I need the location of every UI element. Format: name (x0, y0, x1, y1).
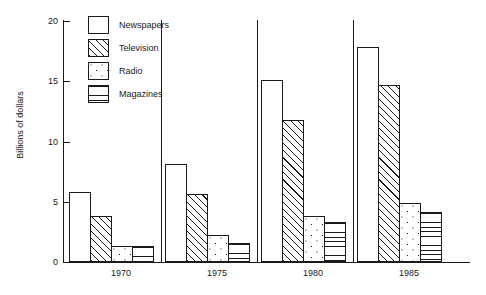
x-tick-label-1985: 1985 (379, 268, 439, 278)
bar-1970-television (90, 216, 112, 262)
y-tick-label-0-wrap: 0 (36, 258, 58, 267)
y-tick-label-5-wrap: 5 (36, 198, 58, 207)
bar-1975-television (186, 194, 208, 262)
bar-group-1985-bars (357, 20, 442, 262)
y-tick-label-20-wrap: 20 (36, 17, 58, 26)
legend-label-magazines: Magazines (119, 89, 163, 99)
y-tick-label-10: 10 (36, 138, 58, 147)
y-tick-0 (63, 262, 70, 263)
y-tick-label-15: 15 (36, 77, 58, 86)
legend-label-radio: Radio (119, 66, 143, 76)
x-tick-label-1980: 1980 (283, 268, 343, 278)
bar-1985-magazines (420, 212, 442, 262)
bar-group-1975-bars (165, 20, 250, 262)
bar-1985-newspapers (357, 47, 379, 262)
legend-item-television: Television (88, 36, 169, 59)
bar-1975-magazines (228, 243, 250, 262)
bar-1970-magazines (132, 246, 154, 262)
chart-legend: Newspapers Television Radio Magazines (88, 13, 169, 105)
bar-group-1980-bars (261, 20, 346, 262)
y-axis-title: Billions of dollars (15, 60, 25, 190)
legend-label-television: Television (119, 43, 159, 53)
x-axis-line (63, 262, 470, 263)
bar-1975-radio (207, 235, 229, 262)
y-tick-label-15-wrap: 15 (36, 77, 58, 86)
y-tick-label-0: 0 (36, 258, 58, 267)
bar-1975-newspapers (165, 164, 187, 262)
legend-label-newspapers: Newspapers (119, 20, 169, 30)
bar-1980-television (282, 120, 304, 262)
bar-1985-radio (399, 203, 421, 262)
legend-swatch-magazines-icon (88, 85, 109, 103)
bar-1985-television (378, 85, 400, 262)
bar-1970-radio (111, 246, 133, 262)
x-tick-label-1975: 1975 (187, 268, 247, 278)
group-separator-3 (353, 20, 354, 262)
bar-chart: Billions of dollars 20 15 10 5 0 (0, 0, 486, 295)
y-tick-label-20: 20 (36, 17, 58, 26)
bar-1970-newspapers (69, 192, 91, 262)
legend-swatch-television-icon (88, 39, 109, 57)
y-tick-label-5: 5 (36, 198, 58, 207)
legend-swatch-radio-icon (88, 62, 109, 80)
x-tick-label-1970: 1970 (91, 268, 151, 278)
group-separator-2 (257, 20, 258, 262)
bar-1980-magazines (324, 222, 346, 262)
legend-item-radio: Radio (88, 59, 169, 82)
bar-1980-radio (303, 216, 325, 262)
legend-swatch-newspapers-icon (88, 16, 109, 34)
legend-item-magazines: Magazines (88, 82, 169, 105)
legend-item-newspapers: Newspapers (88, 13, 169, 36)
bar-1980-newspapers (261, 80, 283, 262)
y-tick-label-10-wrap: 10 (36, 138, 58, 147)
